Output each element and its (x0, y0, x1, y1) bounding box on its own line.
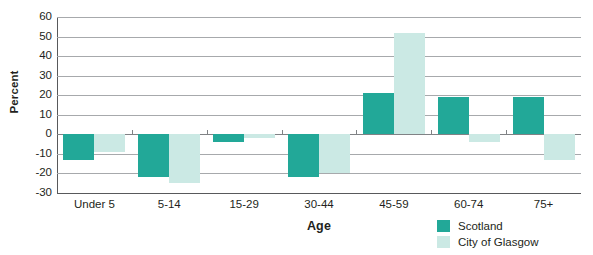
x-tick-label: 30-44 (282, 198, 357, 210)
legend-swatch-icon-city-of-glasgow (437, 236, 450, 248)
x-tick-label: Under 5 (57, 198, 132, 210)
y-tick-label-20: 20 (39, 89, 52, 101)
y-tick-label-10: 10 (39, 109, 52, 121)
bar-group: 60-74 (431, 17, 506, 193)
x-tick-mark (506, 130, 507, 134)
bar-city-of-glasgow-15-29 (244, 134, 275, 138)
x-tick-label: 60-74 (431, 198, 506, 210)
legend-label-scotland: Scotland (458, 220, 503, 232)
y-axis-title: Percent (8, 52, 20, 132)
legend-item-city-of-glasgow: City of Glasgow (437, 234, 539, 250)
legend-item-scotland: Scotland (437, 218, 539, 234)
x-tick-label: 5-14 (132, 198, 207, 210)
legend-swatch-icon-scotland (437, 220, 450, 232)
x-tick-label: 45-59 (356, 198, 431, 210)
y-tick-label--10: -10 (35, 148, 52, 160)
bar-scotland-5-14 (138, 134, 169, 177)
bar-group: 5-14 (132, 17, 207, 193)
bar-scotland-75- (513, 97, 544, 134)
bar-scotland-60-74 (438, 97, 469, 134)
y-tick-label--20: -20 (35, 168, 52, 180)
legend-label-city-of-glasgow: City of Glasgow (458, 236, 539, 248)
y-tick-label--30: -30 (35, 187, 52, 199)
bar-city-of-glasgow-under-5 (94, 134, 125, 152)
bar-city-of-glasgow-5-14 (169, 134, 200, 183)
x-tick-label: 15-29 (207, 198, 282, 210)
bar-scotland-under-5 (63, 134, 94, 159)
bar-group: 45-59 (356, 17, 431, 193)
gridline--30: -30 (57, 193, 581, 194)
legend: Scotland City of Glasgow (437, 218, 539, 250)
bar-group: 30-44 (282, 17, 357, 193)
y-tick-label-30: 30 (39, 70, 52, 82)
bar-city-of-glasgow-30-44 (319, 134, 350, 173)
bar-group: 75+ (506, 17, 581, 193)
bar-city-of-glasgow-45-59 (394, 33, 425, 135)
y-tick-label-60: 60 (39, 11, 52, 23)
y-tick-label-0: 0 (46, 129, 52, 141)
x-tick-mark (132, 130, 133, 134)
x-tick-mark (207, 130, 208, 134)
plot-area: 6050403020100-10-20-30 Under 55-1415-293… (57, 17, 581, 193)
x-tick-label: 75+ (506, 198, 581, 210)
bar-scotland-30-44 (288, 134, 319, 177)
bar-group: Under 5 (57, 17, 132, 193)
bar-scotland-45-59 (363, 93, 394, 134)
y-tick-label-50: 50 (39, 31, 52, 43)
x-tick-mark (431, 130, 432, 134)
bar-city-of-glasgow-60-74 (469, 134, 500, 142)
x-tick-mark (282, 130, 283, 134)
bar-chart: Percent 6050403020100-10-20-30 Under 55-… (0, 0, 593, 255)
bar-city-of-glasgow-75- (544, 134, 575, 159)
y-tick-label-40: 40 (39, 50, 52, 62)
x-tick-mark (356, 130, 357, 134)
bar-group: 15-29 (207, 17, 282, 193)
bar-scotland-15-29 (213, 134, 244, 142)
